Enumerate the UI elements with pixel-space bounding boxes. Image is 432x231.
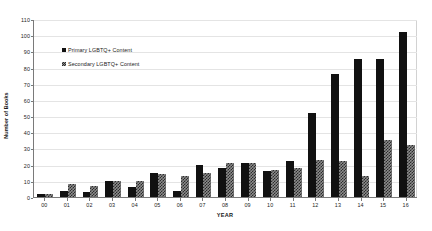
x-tick-mark	[89, 198, 90, 201]
x-tick-mark	[44, 198, 45, 201]
bar-secondary	[45, 194, 53, 197]
x-tick-mark	[67, 198, 68, 201]
x-tick-label: 16	[395, 202, 417, 208]
x-tick-label: 00	[33, 202, 55, 208]
x-tick-mark	[112, 198, 113, 201]
bar-secondary	[407, 145, 415, 197]
bar-group	[263, 20, 279, 197]
x-tick-mark	[157, 198, 158, 201]
x-tick-label: 07	[191, 202, 213, 208]
bar-primary	[150, 173, 158, 197]
bar-secondary	[271, 170, 279, 198]
y-tick-mark	[31, 166, 33, 167]
y-tick-label: 70	[6, 82, 30, 88]
bar-primary	[308, 113, 316, 197]
x-tick-mark	[406, 198, 407, 201]
x-tick-label: 08	[214, 202, 236, 208]
x-tick-label: 12	[304, 202, 326, 208]
x-tick-mark	[180, 198, 181, 201]
y-tick-label: 90	[6, 49, 30, 55]
x-tick-mark	[383, 198, 384, 201]
bar-secondary	[249, 163, 257, 197]
bar-primary	[37, 194, 45, 197]
legend-item-secondary: Secondary LGBTQ+ Content	[62, 60, 139, 67]
y-tick-mark	[31, 149, 33, 150]
legend-swatch-primary-icon	[62, 48, 66, 52]
legend-label-secondary: Secondary LGBTQ+ Content	[68, 61, 139, 67]
x-tick-mark	[202, 198, 203, 201]
bar-secondary	[68, 184, 76, 197]
bar-primary	[354, 59, 362, 197]
bar-primary	[128, 187, 136, 197]
y-tick-label: 40	[6, 130, 30, 136]
bar-secondary	[136, 181, 144, 197]
x-tick-label: 14	[350, 202, 372, 208]
y-tick-label: 0	[6, 195, 30, 201]
bar-primary	[263, 171, 271, 197]
y-tick-label: 10	[6, 179, 30, 185]
x-tick-mark	[338, 198, 339, 201]
x-tick-label: 04	[124, 202, 146, 208]
bar-group	[354, 20, 370, 197]
bar-primary	[376, 59, 384, 197]
bar-group	[196, 20, 212, 197]
bar-secondary	[158, 174, 166, 197]
x-tick-mark	[315, 198, 316, 201]
bar-primary	[241, 163, 249, 197]
x-tick-label: 10	[259, 202, 281, 208]
x-tick-mark	[293, 198, 294, 201]
bar-group	[376, 20, 392, 197]
bar-secondary	[316, 160, 324, 197]
bar-primary	[331, 74, 339, 197]
bar-primary	[286, 161, 294, 197]
x-tick-label: 11	[282, 202, 304, 208]
bar-primary	[83, 192, 91, 197]
bar-secondary	[226, 163, 234, 197]
legend-swatch-secondary-icon	[62, 62, 66, 66]
y-tick-label: 110	[6, 17, 30, 23]
bar-group	[331, 20, 347, 197]
y-tick-mark	[31, 69, 33, 70]
legend-label-primary: Primary LGBTQ+ Content	[68, 47, 132, 53]
x-tick-mark	[135, 198, 136, 201]
y-tick-label: 20	[6, 163, 30, 169]
bar-group	[308, 20, 324, 197]
bar-secondary	[294, 168, 302, 197]
y-tick-mark	[31, 117, 33, 118]
x-tick-label: 03	[101, 202, 123, 208]
y-tick-label: 30	[6, 146, 30, 152]
chart-legend: Primary LGBTQ+ Content Secondary LGBTQ+ …	[62, 46, 139, 74]
y-tick-label: 60	[6, 98, 30, 104]
legend-item-primary: Primary LGBTQ+ Content	[62, 46, 139, 53]
x-tick-label: 15	[372, 202, 394, 208]
x-tick-label: 06	[169, 202, 191, 208]
bar-primary	[399, 32, 407, 197]
y-tick-label: 100	[6, 33, 30, 39]
y-tick-mark	[31, 101, 33, 102]
bar-secondary	[362, 176, 370, 197]
y-tick-mark	[31, 20, 33, 21]
y-tick-label: 50	[6, 114, 30, 120]
bar-group	[286, 20, 302, 197]
bar-secondary	[339, 161, 347, 197]
x-tick-mark	[248, 198, 249, 201]
bar-group	[150, 20, 166, 197]
bar-primary	[196, 165, 204, 197]
bar-secondary	[113, 181, 121, 197]
bar-secondary	[90, 186, 98, 197]
bar-primary	[173, 191, 181, 197]
bar-group	[218, 20, 234, 197]
bar-group	[399, 20, 415, 197]
x-tick-label: 09	[237, 202, 259, 208]
x-tick-label: 13	[327, 202, 349, 208]
x-tick-mark	[361, 198, 362, 201]
bar-chart: Number of Books 010203040506070809010011…	[0, 0, 432, 231]
y-tick-mark	[31, 52, 33, 53]
x-tick-label: 01	[56, 202, 78, 208]
bar-secondary	[384, 140, 392, 197]
x-tick-mark	[225, 198, 226, 201]
y-tick-mark	[31, 133, 33, 134]
y-tick-label: 80	[6, 66, 30, 72]
bar-group	[173, 20, 189, 197]
x-axis-title: YEAR	[33, 212, 417, 218]
